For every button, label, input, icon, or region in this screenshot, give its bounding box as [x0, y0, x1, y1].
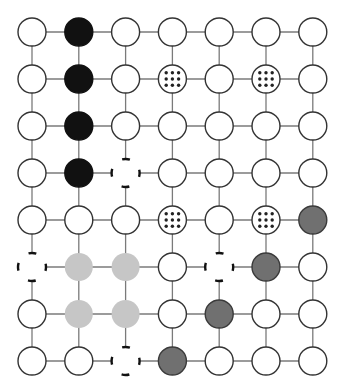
node-white — [299, 159, 327, 187]
node-white — [18, 206, 46, 234]
node-dashed — [112, 159, 140, 187]
node-black — [65, 65, 93, 93]
node-white — [299, 300, 327, 328]
dot-icon — [264, 84, 267, 87]
node-white — [18, 112, 46, 140]
dot-icon — [171, 225, 174, 228]
dot-icon — [258, 84, 261, 87]
node-white — [18, 18, 46, 46]
dot-icon — [258, 225, 261, 228]
dot-icon — [171, 77, 174, 80]
dot-icon — [258, 71, 261, 74]
node-dark — [205, 300, 233, 328]
dot-icon — [165, 225, 168, 228]
dot-icon — [258, 218, 261, 221]
node-white — [252, 159, 280, 187]
node-white — [299, 253, 327, 281]
node-white — [158, 18, 186, 46]
dot-icon — [177, 212, 180, 215]
dot-icon — [165, 84, 168, 87]
dot-icon — [271, 212, 274, 215]
node-light — [112, 253, 140, 281]
node-white — [158, 112, 186, 140]
node-dotted — [158, 206, 186, 234]
dot-icon — [271, 71, 274, 74]
node-white — [18, 65, 46, 93]
dot-icon — [258, 77, 261, 80]
node-white — [252, 18, 280, 46]
node-dashed — [18, 253, 46, 281]
dot-icon — [171, 71, 174, 74]
node-light — [65, 300, 93, 328]
dot-icon — [177, 84, 180, 87]
node-white — [65, 347, 93, 375]
dot-icon — [271, 218, 274, 221]
node-white — [158, 300, 186, 328]
node-white — [299, 347, 327, 375]
dot-icon — [264, 212, 267, 215]
node-black — [65, 159, 93, 187]
dot-icon — [177, 71, 180, 74]
node-white — [299, 112, 327, 140]
dot-icon — [177, 77, 180, 80]
node-white — [252, 112, 280, 140]
node-white — [205, 347, 233, 375]
node-dotted — [252, 65, 280, 93]
node-light — [112, 300, 140, 328]
node-dashed — [112, 347, 140, 375]
node-dotted — [252, 206, 280, 234]
node-white — [18, 300, 46, 328]
dot-icon — [165, 71, 168, 74]
node-white — [299, 65, 327, 93]
node-white — [299, 18, 327, 46]
node-white — [205, 65, 233, 93]
dot-icon — [264, 77, 267, 80]
node-light — [65, 253, 93, 281]
lattice-graph — [0, 0, 347, 390]
dot-icon — [264, 71, 267, 74]
node-white — [18, 159, 46, 187]
node-white — [205, 159, 233, 187]
node-white — [18, 347, 46, 375]
node-white — [158, 159, 186, 187]
dot-icon — [177, 225, 180, 228]
dot-icon — [271, 77, 274, 80]
dot-icon — [165, 77, 168, 80]
node-dotted — [158, 65, 186, 93]
dot-icon — [264, 218, 267, 221]
dot-icon — [165, 218, 168, 221]
node-dark — [299, 206, 327, 234]
node-dark — [252, 253, 280, 281]
node-white — [205, 112, 233, 140]
node-white — [205, 18, 233, 46]
node-white — [65, 206, 93, 234]
node-white — [112, 18, 140, 46]
dot-icon — [171, 212, 174, 215]
node-black — [65, 18, 93, 46]
dot-icon — [171, 84, 174, 87]
dot-icon — [258, 212, 261, 215]
node-white — [158, 253, 186, 281]
node-dashed — [205, 253, 233, 281]
dot-icon — [264, 225, 267, 228]
node-white — [112, 112, 140, 140]
node-white — [112, 65, 140, 93]
node-dark — [158, 347, 186, 375]
dot-icon — [165, 212, 168, 215]
dot-icon — [271, 84, 274, 87]
node-white — [252, 347, 280, 375]
dot-icon — [171, 218, 174, 221]
dot-icon — [177, 218, 180, 221]
grid-diagram — [0, 0, 347, 390]
dot-icon — [271, 225, 274, 228]
node-white — [205, 206, 233, 234]
node-black — [65, 112, 93, 140]
node-white — [112, 206, 140, 234]
node-white — [252, 300, 280, 328]
